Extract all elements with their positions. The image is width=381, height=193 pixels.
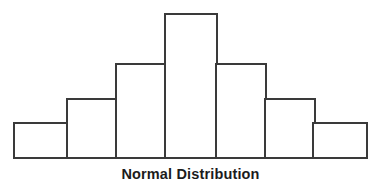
chart-caption: Normal Distribution bbox=[0, 165, 381, 183]
histogram-bar bbox=[116, 64, 166, 158]
histogram-bar bbox=[265, 99, 315, 158]
normal-distribution-figure: Normal Distribution bbox=[0, 0, 381, 193]
histogram-bar bbox=[14, 123, 68, 158]
histogram-bar bbox=[216, 64, 266, 158]
histogram-bar bbox=[313, 123, 367, 158]
histogram-bar bbox=[67, 99, 117, 158]
histogram-bar bbox=[165, 14, 217, 158]
